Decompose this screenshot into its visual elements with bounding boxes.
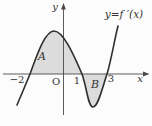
origin-label: O xyxy=(52,76,60,87)
x-axis-label: x xyxy=(137,73,143,84)
region-b-label: B xyxy=(90,78,99,91)
y-axis-label: y xyxy=(51,1,58,12)
region-a-label: A xyxy=(37,50,46,63)
derivative-function-graph: y y=f ′(x) A B O −2 1 3 x xyxy=(0,0,152,126)
x-tick-minus-2: −2 xyxy=(10,74,25,85)
x-tick-3: 3 xyxy=(108,73,114,84)
curve-equation-label: y=f ′(x) xyxy=(104,8,143,20)
x-tick-1: 1 xyxy=(74,75,80,86)
